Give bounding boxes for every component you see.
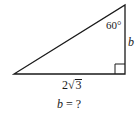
question-unknown: ? xyxy=(76,97,81,111)
side-b-label: b xyxy=(128,36,134,48)
radicand: 3 xyxy=(75,79,82,91)
radical-sign: √ xyxy=(68,78,75,92)
right-angle-marker xyxy=(115,64,125,74)
question-text: b = ? xyxy=(57,98,81,110)
triangle xyxy=(14,5,125,74)
question-equals: = xyxy=(63,97,76,111)
base-length-label: 2√3 xyxy=(62,79,82,91)
angle-label: 60° xyxy=(106,19,121,31)
